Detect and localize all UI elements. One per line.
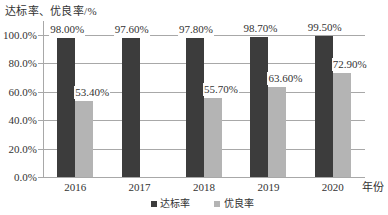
data-label-series-0: 99.50% bbox=[307, 21, 343, 34]
bar-series-0 bbox=[186, 38, 204, 177]
gridline bbox=[38, 177, 365, 178]
x-tick-label: 2016 bbox=[55, 180, 95, 194]
bar-series-0 bbox=[122, 38, 140, 177]
data-label-series-1: 63.60% bbox=[267, 72, 303, 85]
bar-series-1 bbox=[75, 101, 93, 177]
bar-series-1 bbox=[204, 98, 222, 177]
x-tick-label: 2019 bbox=[248, 180, 288, 194]
bar-series-0 bbox=[315, 36, 333, 177]
data-label-series-0: 97.60% bbox=[114, 23, 150, 36]
x-axis-title: 年份 bbox=[362, 180, 384, 194]
y-tick-label: 20.0% bbox=[0, 142, 37, 156]
bar-series-0 bbox=[250, 37, 268, 177]
data-label-series-0: 97.80% bbox=[178, 23, 214, 36]
y-tick-label: 0.0% bbox=[0, 170, 37, 184]
legend-swatch-series-0 bbox=[151, 201, 157, 207]
legend-label-series-1: 优良率 bbox=[224, 197, 254, 211]
bar-series-1 bbox=[268, 87, 286, 177]
bar-series-0 bbox=[57, 38, 75, 177]
data-label-series-1: 53.40% bbox=[74, 86, 110, 99]
data-label-series-1: 55.70% bbox=[203, 83, 239, 96]
data-label-series-0: 98.70% bbox=[242, 22, 278, 35]
y-tick-label: 100.0% bbox=[0, 28, 37, 42]
y-axis-line bbox=[43, 21, 44, 178]
y-axis-title: 达标率、优良率/% bbox=[5, 4, 97, 18]
legend-label-series-0: 达标率 bbox=[160, 197, 190, 211]
x-tick-label: 2017 bbox=[120, 180, 160, 194]
bar-series-1 bbox=[333, 73, 351, 177]
x-tick-label: 2018 bbox=[184, 180, 224, 194]
bar-chart: 达标率、优良率/% 0.0%20.0%40.0%60.0%80.0%100.0%… bbox=[0, 0, 388, 215]
legend-swatch-series-1 bbox=[214, 201, 220, 207]
data-label-series-1: 72.90% bbox=[332, 58, 368, 71]
y-tick-label: 60.0% bbox=[0, 85, 37, 99]
data-label-series-0: 98.00% bbox=[49, 23, 85, 36]
y-tick-label: 80.0% bbox=[0, 56, 37, 70]
y-tick-label: 40.0% bbox=[0, 113, 37, 127]
x-tick-label: 2020 bbox=[313, 180, 353, 194]
